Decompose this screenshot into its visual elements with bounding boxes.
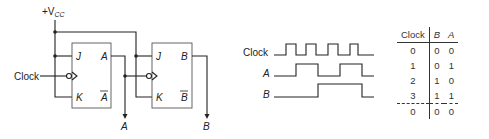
timing-a-label: A <box>262 68 270 79</box>
ff2-j-label: J <box>155 51 162 62</box>
truth-table: Clock B A 000 101 210 311 000 <box>397 27 458 119</box>
ff1-qbar-label: A <box>100 92 108 103</box>
table-row: 000 <box>397 104 458 120</box>
output-a-label: A <box>120 121 128 132</box>
junction-dot <box>134 54 138 58</box>
arrow-down-icon <box>205 114 210 119</box>
a-waveform <box>274 64 374 76</box>
output-b-label: B <box>203 121 210 132</box>
header-a: A <box>444 27 458 43</box>
ff1-j-label: J <box>75 51 82 62</box>
table-row: 210 <box>397 73 458 88</box>
header-clock: Clock <box>397 27 429 43</box>
table-row: 000 <box>397 43 458 59</box>
table-row: 101 <box>397 58 458 73</box>
arrow-down-icon <box>123 114 128 119</box>
timing-clock-label: Clock <box>243 47 269 58</box>
ff1-clock-bubble <box>67 74 72 79</box>
ff2-qbar-label: B <box>181 92 188 103</box>
clock-waveform <box>274 44 374 55</box>
ff2-clock-bubble <box>147 74 152 79</box>
a-output-wire <box>111 56 125 116</box>
timing-b-label: B <box>263 89 270 100</box>
table-row: 311 <box>397 88 458 104</box>
b-output-wire <box>192 56 207 116</box>
header-b: B <box>429 27 444 43</box>
junction-dot <box>123 74 127 78</box>
ff2-q-label: B <box>181 51 188 62</box>
vcc-label: +VCC <box>42 6 66 18</box>
junction-dot <box>53 54 57 58</box>
clock-input-label: Clock <box>14 71 40 82</box>
junction-dot <box>53 30 57 34</box>
b-waveform <box>274 84 374 97</box>
ff1-q-label: A <box>100 51 108 62</box>
